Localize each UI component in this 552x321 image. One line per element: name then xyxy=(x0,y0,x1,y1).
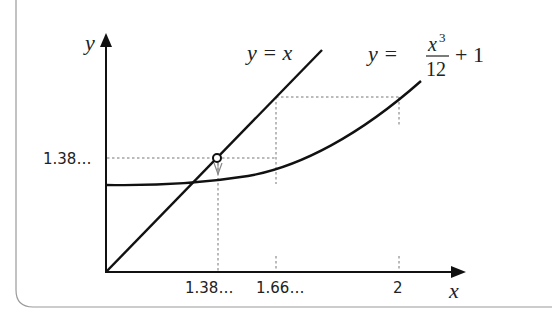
curve-label-lhs: y = xyxy=(366,41,398,66)
curve-cubic xyxy=(106,81,421,185)
curve-label-rhs: + 1 xyxy=(455,42,484,67)
y-axis-label: y xyxy=(83,30,95,55)
iteration-graph: y x 1.38… 1.38… 1.66… 2 y = x y = x 3 12… xyxy=(0,0,552,321)
curve-label-exponent: 3 xyxy=(439,30,446,45)
line-label: y = x xyxy=(245,40,293,65)
x-tick-1-66: 1.66… xyxy=(256,279,304,297)
curve-label-denominator: 12 xyxy=(426,58,446,80)
x-axis-label: x xyxy=(448,278,459,303)
x-axis-arrow-icon xyxy=(451,266,466,278)
y-tick-1-38: 1.38… xyxy=(43,150,91,168)
fixed-point-marker xyxy=(213,154,221,162)
curve-label: y = x 3 12 + 1 xyxy=(366,30,484,80)
x-tick-1-38: 1.38… xyxy=(185,279,233,297)
y-axis-arrow-icon xyxy=(100,33,112,47)
curve-label-numerator: x xyxy=(427,33,437,55)
x-tick-2: 2 xyxy=(393,279,403,297)
